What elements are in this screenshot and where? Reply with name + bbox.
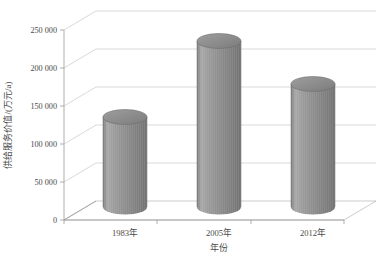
y-tick-label: 100 000 <box>30 140 57 149</box>
y-axis-title: 供给服务价值/(万元/a) <box>2 82 13 169</box>
bar-top-cap <box>103 110 147 125</box>
bar-2005[interactable] <box>197 34 241 215</box>
bar-texture <box>103 117 147 215</box>
y-tick-label: 50 000 <box>34 178 57 187</box>
bar-2012[interactable] <box>291 77 335 215</box>
x-tick-label: 2012年 <box>300 227 326 238</box>
supply-service-value-3d-bar-chart: 250 000 200 000 150 000 100 000 50 000 0 <box>0 0 380 266</box>
bar-1983[interactable] <box>103 110 147 215</box>
x-axis-title: 年份 <box>210 242 228 253</box>
chart-container: 250 000 200 000 150 000 100 000 50 000 0 <box>0 0 380 266</box>
y-tick-label: 150 000 <box>30 102 57 111</box>
bar-texture <box>197 41 241 215</box>
y-tick-label: 0 <box>53 216 57 225</box>
x-tick-label: 1983年 <box>112 227 138 238</box>
y-tick-label: 200 000 <box>30 64 57 73</box>
bar-texture <box>291 84 335 215</box>
bar-top-cap <box>197 34 241 49</box>
y-tick-label: 250 000 <box>30 26 57 35</box>
x-tick-label: 2005年 <box>206 227 232 238</box>
bar-top-cap <box>291 77 335 92</box>
